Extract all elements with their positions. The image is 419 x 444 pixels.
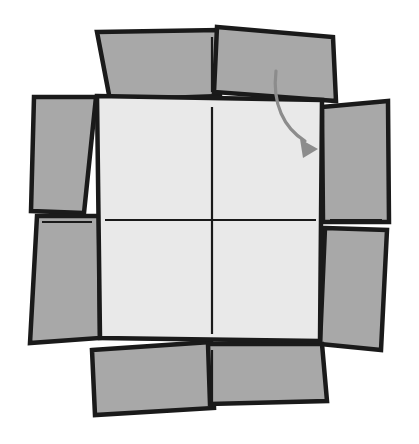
flap-top-left [97,30,220,100]
figure-root: Open cardboard box with unfolded flaps [0,0,419,444]
box-base-panel [97,96,322,341]
flap-bottom-right [208,344,327,404]
open-box-diagram: Open cardboard box with unfolded flaps [0,0,419,444]
flap-right-lower [320,228,387,350]
flap-left-upper [31,97,96,213]
flap-right-upper [322,101,389,222]
flap-bottom-left [92,342,214,415]
flap-left-lower [30,216,100,343]
